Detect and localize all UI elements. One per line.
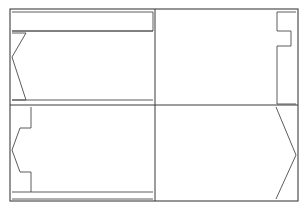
figure-svg <box>0 0 308 211</box>
technical-drawing-canvas <box>0 0 308 211</box>
